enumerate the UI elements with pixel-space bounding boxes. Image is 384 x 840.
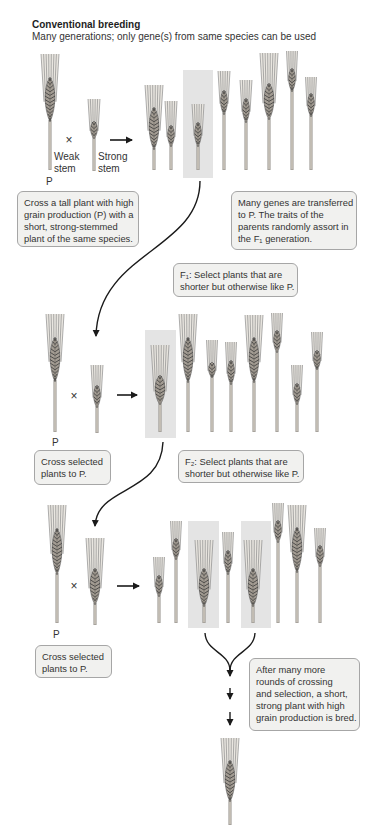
callout-text-line: plants to P. [42, 663, 105, 675]
callout-text-line: parents randomly assort in [238, 221, 350, 233]
wheat-plant-selected-f2 [86, 538, 104, 625]
weak-stem-label: Weak stem [54, 151, 79, 174]
callout-cross-selected-2: Cross selected plants to P. [35, 645, 112, 678]
callout-text-line: shorter but otherwise like P. [185, 468, 297, 480]
callout-text-line: After many more [256, 664, 353, 676]
cross-symbol-row2: × [69, 390, 79, 402]
callout-f2-select: F₂: Select plants that are shorter but o… [178, 450, 304, 483]
callout-text-line: and selection, a short, [256, 688, 353, 700]
wheat-plant-f1-offspring [260, 53, 278, 170]
callout-text-line: F₂: Select plants that are [185, 456, 297, 468]
diagram-title: Conventional breeding [32, 19, 140, 30]
wheat-plant-final-bred-plant [221, 738, 239, 825]
wheat-plant-f1-offspring [240, 80, 252, 170]
callout-cross-initial: Cross a tall plant with high grain produ… [17, 191, 139, 247]
callout-text-line: plant of the same species. [24, 233, 132, 245]
wheat-plant-f1-offspring [165, 101, 177, 170]
parent-label-row1: P [46, 176, 53, 188]
weak-stem-label-line2: stem [54, 163, 79, 175]
wheat-plant-offspring [171, 521, 182, 623]
callout-text-line: rounds of crossing [256, 676, 353, 688]
wheat-plant-offspring [223, 532, 234, 623]
diagram-subtitle: Many generations; only gene(s) from same… [32, 31, 316, 42]
wheat-plant-f2-offspring [207, 340, 218, 432]
wheat-plant-offspring [315, 528, 326, 623]
callout-text-line: strong plant with high [256, 700, 353, 712]
wheat-plant-selected-f1 [91, 365, 103, 433]
callout-text-line: shorter but otherwise like P. [180, 281, 291, 293]
callout-text-line: grain production is bred. [256, 712, 353, 724]
wheat-plant-f2-offspring [226, 342, 237, 432]
callout-text-line: F₁: Select plants that are [180, 269, 291, 281]
wheat-plant-f2-offspring [292, 365, 303, 432]
callout-text-line: grain production (P) with a [24, 209, 132, 221]
cross-symbol-row3: × [69, 580, 79, 592]
cross-symbol-row1: × [64, 134, 74, 146]
callout-result: After many more rounds of crossing and s… [249, 658, 360, 731]
callout-text-line: to P. The traits of the [238, 209, 350, 221]
wheat-plant-f1-offspring [306, 77, 317, 170]
wheat-plant-parent [48, 505, 66, 623]
wheat-plant-f2-offspring [245, 315, 263, 432]
strong-stem-label-line2: stem [98, 163, 127, 175]
wheat-plant-offspring [288, 505, 306, 623]
converge-line-left [205, 633, 230, 670]
callout-cross-selected-1: Cross selected plants to P. [34, 450, 111, 485]
wheat-plant-parent [46, 314, 64, 432]
wheat-plant-f2-offspring [312, 332, 323, 432]
wheat-plant-offspring [154, 557, 165, 623]
callout-text-line: Cross a tall plant with high [24, 197, 132, 209]
callout-genes-transferred: Many genes are transferred to P. The tra… [231, 191, 357, 250]
wheat-plant-f1-offspring [218, 71, 230, 170]
wheat-plant-f2-offspring [272, 313, 283, 432]
callout-f1-select: F₁: Select plants that are shorter but o… [173, 263, 298, 297]
parent-label-row3: P [53, 629, 60, 641]
strong-stem-label-line1: Strong [98, 151, 127, 163]
callout-text-line: the F₁ generation. [238, 233, 350, 245]
weak-stem-label-line1: Weak [54, 151, 79, 163]
wheat-plant-f2-offspring [179, 314, 197, 432]
callout-text-line: short, strong-stemmed [24, 221, 132, 233]
callout-text-line: Cross selected [41, 456, 104, 468]
callout-text-line: Many genes are transferred [238, 197, 350, 209]
callout-text-line: plants to P. [41, 468, 104, 480]
wheat-plant-offspring [273, 503, 284, 623]
wheat-plant-f1-offspring [287, 51, 298, 170]
callout-text-line: Cross selected [42, 651, 105, 663]
parent-label-row2: P [52, 437, 59, 449]
wheat-plant-f1-offspring [145, 85, 163, 170]
strong-stem-label: Strong stem [98, 151, 127, 174]
conventional-breeding-diagram: Conventional breeding Many generations; … [0, 0, 384, 840]
